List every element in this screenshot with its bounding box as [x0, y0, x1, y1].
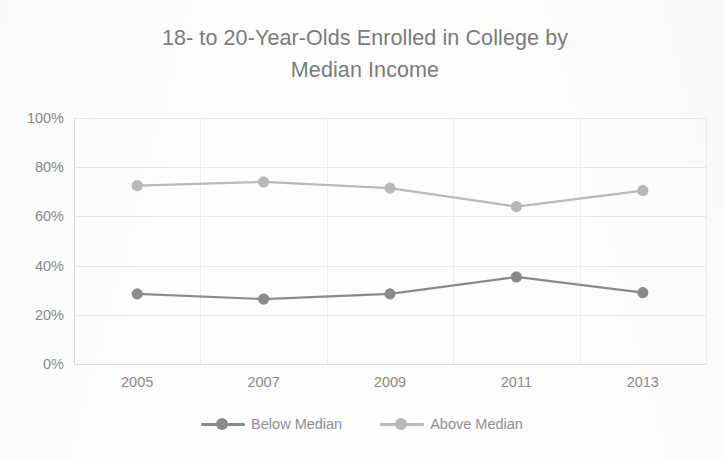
- series-below-median: [132, 271, 649, 304]
- data-point: [258, 176, 269, 187]
- plot-area: [74, 118, 706, 364]
- chart-title: 18- to 20-Year-Olds Enrolled in College …: [70, 22, 660, 86]
- y-axis-tick-labels: 0%20%40%60%80%100%: [0, 118, 64, 364]
- y-tick-label: 40%: [4, 258, 64, 274]
- data-point: [258, 293, 269, 304]
- data-point: [132, 180, 143, 191]
- data-point: [637, 185, 648, 196]
- legend-item-below-median[interactable]: Below Median: [201, 416, 342, 432]
- legend-label: Above Median: [430, 416, 523, 432]
- data-point: [511, 271, 522, 282]
- series-above-median: [132, 176, 649, 212]
- legend-marker-icon: [216, 418, 228, 430]
- chart-title-line-1: 18- to 20-Year-Olds Enrolled in College …: [162, 26, 568, 50]
- y-tick-label: 80%: [4, 159, 64, 175]
- legend-swatch-icon: [380, 417, 424, 431]
- y-tick-label: 20%: [4, 307, 64, 323]
- x-axis-tick-labels: 20052007200920112013: [74, 374, 706, 398]
- x-tick-label: 2005: [97, 374, 177, 390]
- series-layer: [74, 118, 706, 364]
- x-tick-label: 2007: [224, 374, 304, 390]
- data-point: [511, 201, 522, 212]
- legend-marker-icon: [395, 418, 407, 430]
- data-point: [384, 183, 395, 194]
- chart-container: 18- to 20-Year-Olds Enrolled in College …: [0, 0, 724, 460]
- chart-legend: Below MedianAbove Median: [0, 416, 724, 432]
- legend-item-above-median[interactable]: Above Median: [380, 416, 523, 432]
- plot-right-border: [706, 118, 707, 365]
- x-tick-label: 2009: [350, 374, 430, 390]
- data-point: [384, 288, 395, 299]
- data-point: [637, 287, 648, 298]
- y-tick-label: 100%: [4, 110, 64, 126]
- gridline-0: [74, 364, 706, 365]
- legend-label: Below Median: [251, 416, 342, 432]
- x-tick-label: 2013: [603, 374, 683, 390]
- legend-swatch-icon: [201, 417, 245, 431]
- x-tick-label: 2011: [476, 374, 556, 390]
- chart-title-line-2: Median Income: [291, 58, 439, 82]
- data-point: [132, 288, 143, 299]
- y-tick-label: 60%: [4, 208, 64, 224]
- y-tick-label: 0%: [4, 356, 64, 372]
